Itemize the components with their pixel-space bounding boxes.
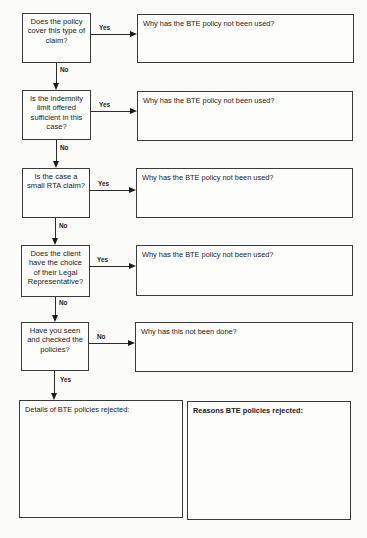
arrow-right-icon bbox=[129, 187, 136, 193]
branch-label: Yes bbox=[97, 256, 108, 263]
connector-line bbox=[54, 371, 55, 393]
connector-line bbox=[90, 266, 130, 267]
connector-line bbox=[56, 63, 57, 84]
question-text: Is the case a small RTA claim? bbox=[26, 172, 86, 191]
reasons-rejected-box[interactable]: Reasons BTE policies rejected: bbox=[187, 401, 351, 520]
response-box[interactable]: Why has the BTE policy not been used? bbox=[136, 168, 353, 218]
arrow-down-icon bbox=[52, 238, 58, 245]
question-box-legal-representative: Does the client have the choice of their… bbox=[21, 245, 90, 297]
question-text: Have you seen and checked the policies? bbox=[25, 326, 85, 354]
arrow-right-icon bbox=[128, 340, 135, 346]
question-text: Does the client have the choice of their… bbox=[25, 249, 86, 287]
response-prompt: Why has the BTE policy not been used? bbox=[142, 173, 273, 182]
connector-line bbox=[90, 190, 130, 191]
details-rejected-box[interactable]: Details of BTE policies rejected: bbox=[19, 400, 183, 518]
down-label: No bbox=[60, 66, 69, 73]
arrow-down-icon bbox=[53, 83, 59, 90]
response-box[interactable]: Why has this not been done? bbox=[135, 322, 353, 372]
arrow-right-icon bbox=[129, 263, 136, 269]
connector-line bbox=[56, 140, 57, 161]
question-box-seen-policies: Have you seen and checked the policies? bbox=[21, 322, 89, 371]
arrow-right-icon bbox=[130, 108, 137, 114]
question-text: Does the policy cover this type of claim… bbox=[26, 17, 87, 45]
down-label: No bbox=[59, 299, 68, 306]
connector-line bbox=[91, 34, 131, 35]
down-label: No bbox=[59, 222, 68, 229]
down-label: No bbox=[60, 144, 69, 151]
arrow-down-icon bbox=[51, 393, 57, 400]
connector-line bbox=[55, 218, 56, 238]
question-text: Is the indemnity limit offered sufficien… bbox=[26, 94, 87, 132]
connector-line bbox=[91, 111, 131, 112]
connector-line bbox=[89, 343, 129, 344]
branch-label: Yes bbox=[98, 180, 109, 187]
response-prompt: Why has the BTE policy not been used? bbox=[142, 250, 273, 259]
response-box[interactable]: Why has the BTE policy not been used? bbox=[137, 14, 354, 63]
branch-label: Yes bbox=[99, 101, 110, 108]
question-box-small-rta: Is the case a small RTA claim? bbox=[22, 168, 90, 218]
response-prompt: Why has the BTE policy not been used? bbox=[143, 96, 274, 105]
down-label: Yes bbox=[60, 376, 71, 383]
branch-label: No bbox=[97, 333, 106, 340]
response-box[interactable]: Why has the BTE policy not been used? bbox=[137, 91, 353, 141]
response-prompt: Why has the BTE policy not been used? bbox=[143, 19, 274, 28]
details-rejected-label: Details of BTE policies rejected: bbox=[25, 405, 129, 414]
arrow-right-icon bbox=[130, 31, 137, 37]
arrow-down-icon bbox=[52, 315, 58, 322]
response-box[interactable]: Why has the BTE policy not been used? bbox=[136, 245, 353, 296]
question-box-policy-cover: Does the policy cover this type of claim… bbox=[22, 13, 91, 63]
connector-line bbox=[55, 297, 56, 315]
arrow-down-icon bbox=[53, 161, 59, 168]
reasons-rejected-label: Reasons BTE policies rejected: bbox=[193, 406, 303, 415]
response-prompt: Why has this not been done? bbox=[141, 327, 237, 336]
question-box-indemnity-limit: Is the indemnity limit offered sufficien… bbox=[22, 90, 91, 140]
branch-label: Yes bbox=[99, 24, 110, 31]
